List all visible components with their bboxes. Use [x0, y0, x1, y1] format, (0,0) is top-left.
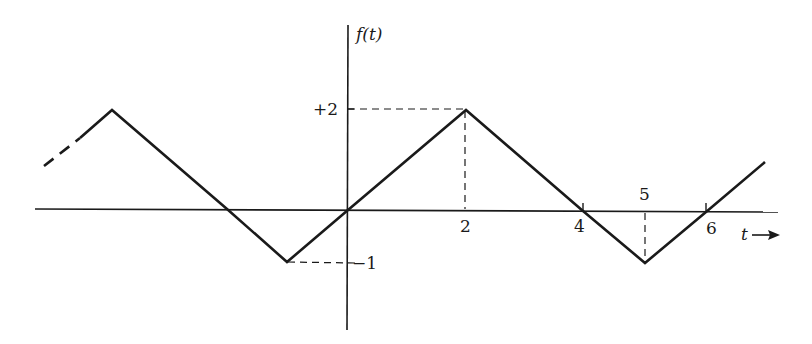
guide-minus1-horizontal	[288, 262, 356, 263]
y-axis	[347, 25, 348, 330]
x-axis-label: t	[741, 224, 748, 244]
x-tick-label-5: 5	[639, 184, 650, 204]
waveform-dashed-start	[44, 138, 80, 166]
y-tick-label-plus2: +2	[313, 99, 338, 119]
arrow-right-icon	[752, 230, 780, 240]
y-tick-label-minus1: −1	[352, 253, 377, 273]
x-tick-label-4: 4	[574, 216, 585, 236]
x-tick-label-2: 2	[460, 216, 471, 236]
x-tick-label-6: 6	[706, 218, 717, 238]
y-axis-label: f(t)	[354, 24, 382, 44]
waveform-diagram: f(t) +2 −1 2 4 5 6 t	[0, 0, 812, 344]
waveform-line	[80, 110, 765, 263]
x-axis	[35, 209, 778, 212]
